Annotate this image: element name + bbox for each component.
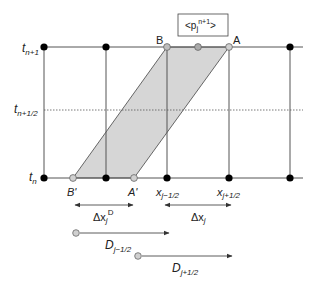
point-B-prime xyxy=(70,175,77,182)
label-t-n-plus-half: tn+1/2 xyxy=(14,102,38,118)
label-B-prime: B' xyxy=(67,186,77,198)
point-B xyxy=(164,44,171,51)
label-dx-cell: Δxj xyxy=(191,211,206,225)
grid-node xyxy=(286,43,293,50)
label-x-j-minus-half: xj−1/2 xyxy=(155,186,180,200)
point-A xyxy=(226,44,233,51)
cell-average-point xyxy=(195,44,202,51)
grid-node xyxy=(40,174,47,181)
grid-node xyxy=(163,174,170,181)
grid-node xyxy=(40,43,47,50)
label-A: A xyxy=(233,34,241,46)
label-t-n: tn xyxy=(29,170,37,186)
flux-origin-right xyxy=(135,253,142,260)
grid-node xyxy=(102,43,109,50)
grid-node xyxy=(225,174,232,181)
label-D-j-plus-half: Dj+1/2 xyxy=(172,261,199,277)
flux-origin-left xyxy=(73,230,80,237)
space-time-diagram: tn+1 tn+1/2 tn B A B' A' xj−1/2 xj+1/2 <… xyxy=(0,0,319,287)
grid-node xyxy=(286,174,293,181)
grid-node xyxy=(102,174,109,181)
label-t-n-plus-1: tn+1 xyxy=(22,41,39,57)
departure-cell-region xyxy=(73,47,229,178)
label-B: B xyxy=(156,34,163,46)
label-D-j-minus-half: Dj−1/2 xyxy=(105,238,132,254)
point-A-prime xyxy=(131,175,138,182)
label-dx-departure: ΔxjD xyxy=(93,208,114,225)
label-x-j-plus-half: xj+1/2 xyxy=(216,186,241,200)
label-A-prime: A' xyxy=(127,186,138,198)
